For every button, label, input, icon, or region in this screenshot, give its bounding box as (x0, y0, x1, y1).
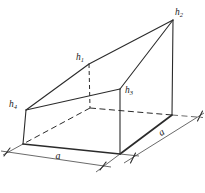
dimension-label-front: a (56, 150, 61, 161)
edge-vertical-h2 (172, 20, 173, 115)
tick-side-far (198, 111, 203, 121)
edge-top-back (89, 20, 173, 64)
extension-line-front-right (96, 154, 120, 172)
vertex-label-h1: h1 (76, 52, 84, 63)
dimension-label-side: a (156, 126, 166, 138)
edge-base-front (23, 144, 120, 154)
extension-lines (3, 115, 203, 172)
vertex-label-h3: h3 (125, 85, 134, 96)
edge-vertical-h4 (23, 110, 26, 144)
hidden-edge-base-back (90, 108, 172, 115)
h3-subscript: 3 (129, 89, 134, 96)
hidden-edge-base-left (23, 108, 90, 144)
edge-top-right (120, 20, 173, 89)
figure-canvas: h4 h1 h3 h2 a a (0, 0, 205, 193)
h2-subscript: 2 (180, 11, 184, 18)
vertex-label-h2: h2 (175, 7, 184, 18)
dimension-ticks (4, 111, 203, 170)
h1-subscript: 1 (81, 56, 84, 63)
prism-diagram: h4 h1 h3 h2 a a (0, 0, 205, 193)
solid-edges (23, 20, 173, 154)
vertex-label-h4: h4 (9, 99, 18, 110)
hidden-edge-vertical-h1 (89, 64, 90, 108)
h4-subscript: 4 (14, 103, 18, 110)
